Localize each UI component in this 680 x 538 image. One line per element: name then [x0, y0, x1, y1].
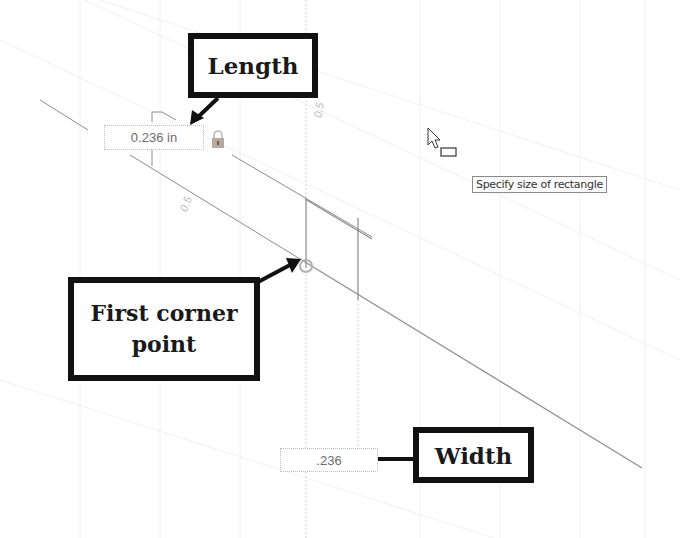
- first-corner-arrow: [258, 258, 301, 282]
- lock-icon[interactable]: [212, 131, 224, 148]
- width-callout-label: Width: [435, 442, 513, 469]
- rectangle-edge-top: [305, 199, 372, 239]
- length-callout: Length: [188, 33, 318, 98]
- length-input[interactable]: 0.236 in: [104, 125, 204, 150]
- length-callout-label: Length: [208, 52, 299, 79]
- tooltip: Specify size of rectangle: [472, 176, 607, 193]
- rectangle-cursor-icon: [428, 128, 456, 156]
- width-callout: Width: [413, 427, 534, 483]
- width-input[interactable]: .236: [280, 448, 378, 472]
- first-corner-callout-line1: First corner: [90, 298, 237, 329]
- length-dimension-leader: [40, 100, 372, 262]
- length-arrow: [190, 98, 218, 125]
- first-corner-callout-line2: point: [132, 329, 197, 360]
- first-corner-callout: First corner point: [68, 277, 260, 381]
